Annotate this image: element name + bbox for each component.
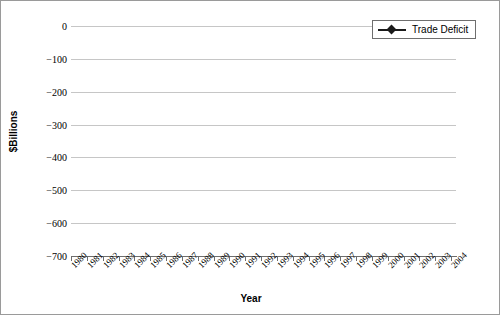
y-axis-tick-label: 0: [23, 21, 67, 32]
gridline: [71, 125, 456, 126]
legend-item-label: Trade Deficit: [412, 24, 468, 35]
y-axis-tick-label: −500: [23, 185, 67, 196]
y-axis-tick-label: −400: [23, 152, 67, 163]
gridline: [71, 157, 456, 158]
y-axis-tick-label: −600: [23, 218, 67, 229]
y-axis-tick-label: −300: [23, 119, 67, 130]
y-axis-tick-label: −100: [23, 53, 67, 64]
y-axis-title-text: $Billions: [9, 110, 20, 152]
chart-figure: $Billions 0−100−200−300−400−500−600−700 …: [0, 0, 500, 315]
gridline: [71, 92, 456, 93]
chart-legend: Trade Deficit: [372, 20, 476, 39]
x-axis-title: Year: [1, 293, 500, 304]
gridline: [71, 190, 456, 191]
plot-background: [71, 26, 456, 256]
plot-area: [71, 26, 456, 256]
gridline: [71, 223, 456, 224]
y-axis-tick-labels: 0−100−200−300−400−500−600−700: [21, 26, 67, 256]
gridline: [71, 59, 456, 60]
x-axis-title-text: Year: [240, 293, 261, 304]
y-axis-tick-label: −200: [23, 86, 67, 97]
legend-marker-icon: [378, 25, 406, 35]
y-axis-tick-label: −700: [23, 251, 67, 262]
